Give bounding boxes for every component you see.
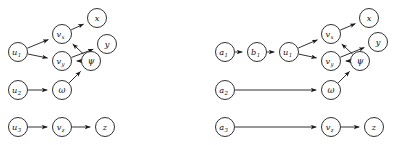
node-circle-x <box>360 9 379 28</box>
node-circle-vz <box>322 118 341 137</box>
node-w[interactable]: ω <box>53 81 72 100</box>
node-circle-a2 <box>216 81 235 100</box>
node-b1[interactable]: b1 <box>248 43 267 62</box>
edge-w-to-psi <box>338 71 349 82</box>
causal-diagram-figure: u1u2u3vxvyvzωψxyza1a2a3b1u1vxvyvzωψxyz <box>0 0 394 145</box>
edge-u1-to-vx <box>298 40 317 48</box>
node-circle-vx <box>322 25 341 44</box>
node-vy[interactable]: vy <box>322 52 341 71</box>
node-circle-x <box>88 9 107 28</box>
node-circle-w <box>322 81 341 100</box>
node-z[interactable]: z <box>96 118 115 137</box>
node-a3[interactable]: a3 <box>216 118 235 137</box>
node-psi[interactable]: ψ <box>351 52 370 71</box>
node-circle-w <box>53 81 72 100</box>
node-circle-vy <box>53 52 72 71</box>
node-y[interactable]: y <box>98 35 117 54</box>
node-u3[interactable]: u3 <box>9 118 28 137</box>
node-z[interactable]: z <box>365 118 384 137</box>
node-circle-psi <box>82 52 101 71</box>
node-x[interactable]: x <box>360 9 379 28</box>
edge-psi-to-vx <box>73 44 84 54</box>
node-x[interactable]: x <box>88 9 107 28</box>
node-u2[interactable]: u2 <box>9 81 28 100</box>
edge-u1-to-vx <box>27 40 48 49</box>
node-circle-vy <box>322 52 341 71</box>
node-circle-a1 <box>216 43 235 62</box>
node-circle-u1 <box>280 43 299 62</box>
node-y[interactable]: y <box>369 33 388 52</box>
node-u1[interactable]: u1 <box>9 43 28 62</box>
node-vx[interactable]: vx <box>53 25 72 44</box>
node-a2[interactable]: a2 <box>216 81 235 100</box>
node-circle-y <box>369 33 388 52</box>
node-u1[interactable]: u1 <box>280 43 299 62</box>
node-vz[interactable]: vz <box>53 118 72 137</box>
node-vz[interactable]: vz <box>322 118 341 137</box>
causal-graph-left: u1u2u3vxvyvzωψxyz <box>0 0 197 145</box>
edge-vx-to-x <box>71 24 83 30</box>
node-psi[interactable]: ψ <box>82 52 101 71</box>
node-circle-a3 <box>216 118 235 137</box>
node-circle-z <box>365 118 384 137</box>
edge-vx-to-x <box>340 24 355 30</box>
node-a1[interactable]: a1 <box>216 43 235 62</box>
node-circle-vx <box>53 25 72 44</box>
node-layer: u1u2u3vxvyvzωψxyz <box>9 9 117 137</box>
node-vy[interactable]: vy <box>53 52 72 71</box>
node-circle-u1 <box>9 43 28 62</box>
node-circle-vz <box>53 118 72 137</box>
causal-graph-right: a1a2a3b1u1vxvyvzωψxyz <box>197 0 394 145</box>
node-w[interactable]: ω <box>322 81 341 100</box>
edge-w-to-psi <box>69 71 80 82</box>
node-circle-y <box>98 35 117 54</box>
edge-u1-to-vy <box>299 54 317 58</box>
edge-u1-to-vy <box>28 54 48 58</box>
node-circle-b1 <box>248 43 267 62</box>
node-circle-u2 <box>9 81 28 100</box>
node-layer: a1a2a3b1u1vxvyvzωψxyz <box>216 9 388 137</box>
node-circle-u3 <box>9 118 28 137</box>
edge-layer <box>235 24 364 127</box>
node-circle-psi <box>351 52 370 71</box>
node-circle-z <box>96 118 115 137</box>
node-vx[interactable]: vx <box>322 25 341 44</box>
